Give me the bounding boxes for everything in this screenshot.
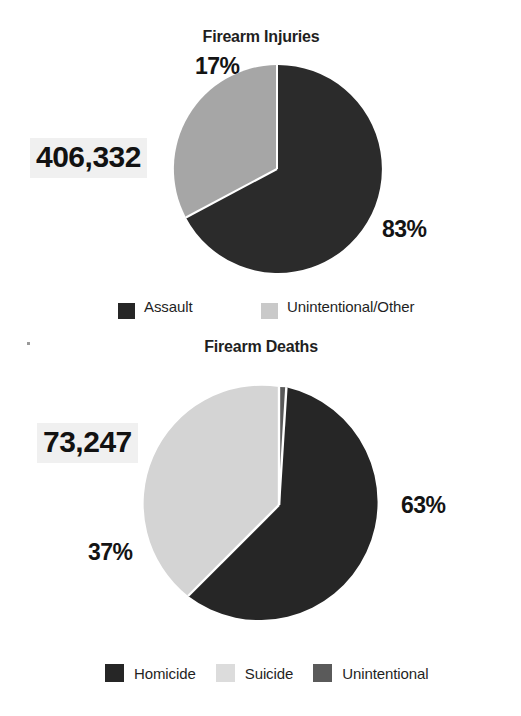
legend-swatch-unintentional-icon [313,664,332,682]
legend-item-suicide: Suicide [216,664,294,682]
legend-label-assault: Assault [144,298,193,315]
legend-label-suicide: Suicide [245,665,294,682]
legend-firearm-injuries: Assault Unintentional/Other [118,298,418,324]
legend-label-unintentional-other: Unintentional/Other [287,298,414,315]
legend-swatch-unintentional-other-icon [261,303,278,319]
total-value-firearm-deaths: 73,247 [37,423,138,463]
pie-label-suicide-pct: 37% [88,539,133,566]
legend-label-unintentional: Unintentional [342,665,428,682]
scan-artifact-speck [27,342,30,345]
pie-label-assault-pct: 83% [382,216,427,243]
total-value-firearm-injuries: 406,332 [30,138,147,178]
pie-svg-firearm-deaths [155,381,403,629]
pie-label-homicide-pct: 63% [401,492,446,519]
legend-item-assault: Assault [118,298,193,315]
legend-swatch-assault-icon [118,303,135,319]
firearm-statistics-figure: Firearm Injuries 406,332 17% 83% Assault… [0,0,521,716]
pie-svg-firearm-injuries [171,63,383,275]
legend-item-homicide: Homicide [105,664,196,682]
chart-title-firearm-injuries: Firearm Injuries [171,28,351,46]
pie-chart-firearm-deaths [155,381,403,629]
legend-firearm-deaths: Homicide Suicide Unintentional [105,660,429,686]
legend-swatch-homicide-icon [105,664,124,682]
legend-label-homicide: Homicide [134,665,196,682]
legend-item-unintentional-other: Unintentional/Other [261,298,414,315]
chart-title-firearm-deaths: Firearm Deaths [176,338,346,356]
pie-chart-firearm-injuries [171,63,383,275]
legend-item-unintentional: Unintentional [313,664,428,682]
legend-swatch-suicide-icon [216,664,235,682]
